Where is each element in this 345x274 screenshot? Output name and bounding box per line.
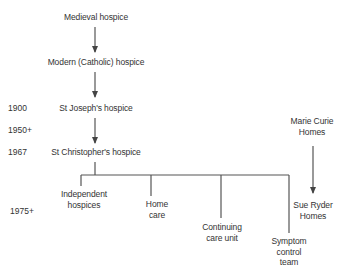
label-line: Marie Curie: [291, 116, 334, 127]
year-1967: 1967: [8, 147, 27, 158]
node-medieval-hospice: Medieval hospice: [64, 12, 128, 23]
year-1975: 1975+: [10, 206, 34, 217]
label-line: care: [146, 210, 168, 221]
label-line: Continuing: [202, 222, 242, 233]
label-line: Independent: [61, 189, 107, 200]
node-st-christophers-hospice: St Christopher's hospice: [51, 147, 140, 158]
node-independent-hospices: Independent hospices: [61, 189, 107, 210]
node-continuing-care-unit: Continuing care unit: [202, 222, 242, 243]
node-home-care: Home care: [146, 199, 168, 220]
label-line: hospices: [61, 200, 107, 211]
connector-lines: [0, 0, 345, 274]
label-line: control: [271, 247, 306, 258]
node-marie-curie-homes: Marie Curie Homes: [291, 116, 334, 137]
label-line: Homes: [291, 127, 334, 138]
node-sue-ryder-homes: Sue Ryder Homes: [293, 200, 332, 221]
label-line: care unit: [202, 233, 242, 244]
node-st-josephs-hospice: St Joseph's hospice: [59, 103, 132, 114]
year-1900: 1900: [8, 103, 27, 114]
label-line: Homes: [293, 211, 332, 222]
year-1950: 1950+: [8, 125, 32, 136]
node-symptom-control-team: Symptom control team: [271, 236, 306, 268]
label-line: Home: [146, 199, 168, 210]
label-line: team: [271, 257, 306, 268]
node-modern-catholic-hospice: Modern (Catholic) hospice: [48, 57, 145, 68]
label-line: Symptom: [271, 236, 306, 247]
label-line: Sue Ryder: [293, 200, 332, 211]
